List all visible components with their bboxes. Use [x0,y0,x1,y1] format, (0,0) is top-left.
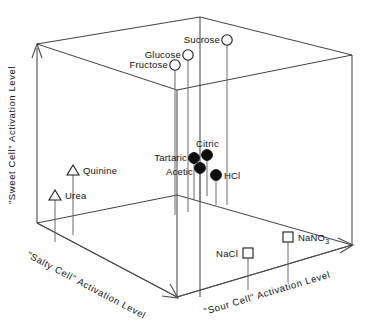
figure-canvas: Sucrose Glucose Fructose Citric Tartaric… [0,0,374,336]
label-nacl: NaCl [216,248,238,259]
markers [49,35,293,258]
cube-edge-top-front-right [177,55,352,90]
cube-edge-top-back-left [37,17,200,44]
marker-acetic[interactable] [195,163,206,174]
three-axis-taste-scatter-figure: Sucrose Glucose Fructose Citric Tartaric… [0,0,374,336]
marker-urea[interactable] [49,190,61,200]
label-urea: Urea [65,190,87,201]
marker-citric[interactable] [202,150,213,161]
label-quinine: Quinine [83,165,117,176]
axis-title-sour: "Sour Cell" Activation Level [203,269,332,317]
label-nano3: NaNO3 [298,232,329,245]
marker-quinine[interactable] [67,165,79,175]
label-hcl: HCl [224,170,240,181]
marker-tartaric[interactable] [189,153,200,164]
label-citric: Citric [196,138,219,149]
axis-salty-line [37,223,177,297]
axis-title-sweet: "Sweet Cell" Activation Level [6,66,17,204]
label-tartaric: Tartaric [154,152,187,163]
marker-nacl[interactable] [243,248,253,258]
label-fructose: Fructose [129,59,168,70]
cube-edge-top-back-right [200,17,352,55]
marker-glucose[interactable] [183,50,193,60]
label-acetic: Acetic [166,166,193,177]
marker-fructose[interactable] [170,60,180,70]
marker-hcl[interactable] [211,170,222,181]
axis-title-salty: "Salty Cell" Activation Level [25,249,148,321]
label-nano3-base: NaNO [298,232,325,243]
marker-nano3[interactable] [283,232,293,242]
label-sucrose: Sucrose [184,34,220,45]
label-nano3-subscript: 3 [325,238,329,245]
marker-sucrose[interactable] [222,35,232,45]
